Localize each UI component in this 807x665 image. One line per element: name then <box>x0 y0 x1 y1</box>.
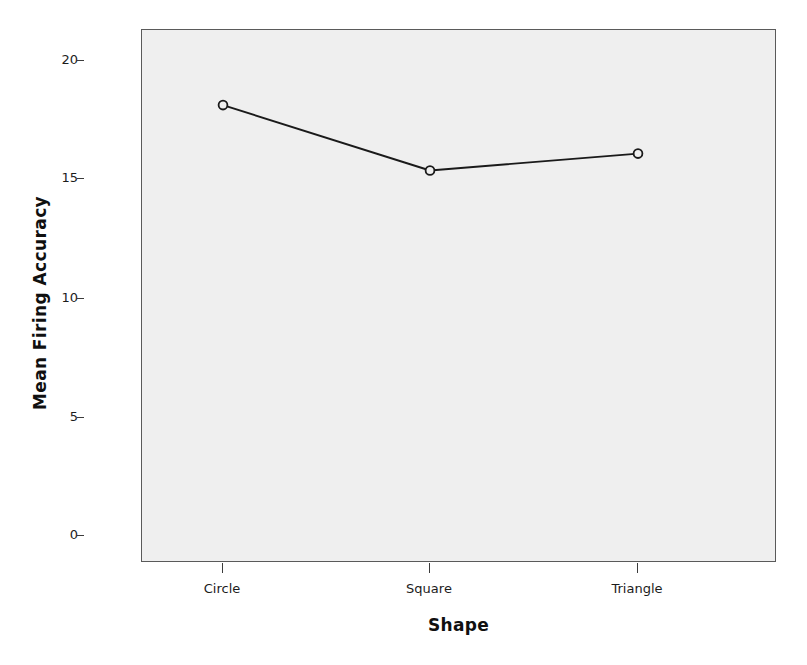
x-axis-title: Shape <box>141 615 776 635</box>
x-tick-label-circle: Circle <box>152 581 292 596</box>
page-caption <box>8 651 798 665</box>
x-axis: Circle Square Triangle Shape <box>0 0 807 665</box>
x-tick-mark-square <box>429 563 430 573</box>
x-tick-label-square: Square <box>359 581 499 596</box>
x-tick-mark-triangle <box>637 563 638 573</box>
x-tick-mark-circle <box>222 563 223 573</box>
chart-figure: 20 15 10 5 0 Mean Firing Accuracy Circle… <box>0 0 807 665</box>
x-tick-label-triangle: Triangle <box>567 581 707 596</box>
